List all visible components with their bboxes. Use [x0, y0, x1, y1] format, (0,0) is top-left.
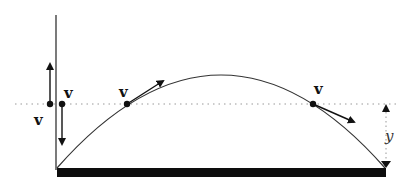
- velocity-rising-arrow: [127, 81, 163, 104]
- height-arrow-up-icon: [382, 104, 390, 112]
- label-v-upper: v: [63, 84, 74, 102]
- label-v-lower: v: [33, 111, 44, 129]
- point-left-a: [47, 101, 53, 107]
- label-height-y: y: [384, 127, 394, 145]
- label-v-falling: v: [313, 80, 324, 98]
- projectile-diagram: v v v v y: [0, 0, 409, 193]
- ground-bar: [57, 168, 386, 177]
- parabolic-path: [57, 75, 385, 168]
- label-v-rising: v: [118, 83, 129, 101]
